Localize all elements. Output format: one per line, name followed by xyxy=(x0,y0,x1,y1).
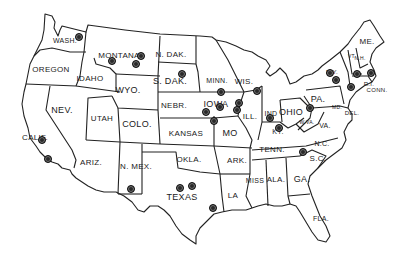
state-label: PA. xyxy=(311,95,326,104)
state-label: UTAH xyxy=(91,115,113,123)
state-label: N. MEX. xyxy=(120,163,152,171)
state-label: MINN. xyxy=(206,77,227,84)
state-label: ARIZ. xyxy=(80,159,102,167)
state-label: TENN. xyxy=(259,146,285,154)
state-label: NEV. xyxy=(51,106,72,115)
location-marker-icon xyxy=(209,204,217,212)
state-label: N.H. xyxy=(354,56,365,61)
location-marker-icon xyxy=(275,124,283,132)
state-label: ILL. xyxy=(243,113,258,121)
location-marker-icon xyxy=(38,136,46,144)
location-marker-icon xyxy=(217,88,225,96)
state-label: FLA. xyxy=(313,215,329,222)
location-marker-icon xyxy=(188,182,196,190)
location-marker-icon xyxy=(332,76,340,84)
state-label: ALA. xyxy=(267,176,286,184)
state-label: MISS xyxy=(246,177,264,184)
state-label: MONTANA xyxy=(98,52,140,60)
state-label: NEBR. xyxy=(161,102,187,110)
state-label: GA. xyxy=(294,175,310,184)
state-label: WASH. xyxy=(53,37,77,44)
state-label: OKLA. xyxy=(176,156,201,164)
state-label: CONN. xyxy=(367,87,388,93)
state-label: W.VA. xyxy=(299,120,314,125)
location-marker-icon xyxy=(353,70,361,78)
state-label: S.C. xyxy=(310,155,327,163)
location-marker-icon xyxy=(367,69,375,77)
location-marker-icon xyxy=(137,52,145,60)
location-marker-icon xyxy=(347,83,355,91)
state-label: N.C. xyxy=(314,140,329,147)
location-marker-icon xyxy=(176,184,184,192)
location-marker-icon xyxy=(266,114,274,122)
state-label: DEL. xyxy=(345,110,360,116)
state-label: ARK. xyxy=(227,157,247,165)
state-label: MD. xyxy=(332,105,342,110)
state-label: MO xyxy=(222,129,237,138)
state-label: ME. xyxy=(359,38,374,46)
location-marker-icon xyxy=(202,108,210,116)
state-label: OHIO xyxy=(279,108,303,117)
state-label: N. DAK. xyxy=(156,51,187,59)
state-label: OREGON xyxy=(32,66,69,74)
location-marker-icon xyxy=(44,155,52,163)
location-marker-icon xyxy=(178,70,186,78)
state-label: TEXAS xyxy=(166,193,197,202)
state-label: WIS. xyxy=(235,78,254,86)
country-outline xyxy=(22,14,384,244)
state-label: WYO. xyxy=(115,86,140,95)
location-marker-icon xyxy=(127,185,135,193)
state-label: KANSAS xyxy=(169,130,203,138)
location-marker-icon xyxy=(216,103,224,111)
location-marker-icon xyxy=(75,33,83,41)
state-label: VA. xyxy=(319,122,331,129)
location-marker-icon xyxy=(306,104,314,112)
location-marker-icon xyxy=(108,57,116,65)
location-marker-icon xyxy=(253,87,261,95)
state-label: LA xyxy=(228,192,238,200)
location-marker-icon xyxy=(299,148,307,156)
location-marker-icon xyxy=(233,106,241,114)
location-marker-icon xyxy=(132,60,140,68)
state-label: COLO. xyxy=(122,120,152,129)
location-marker-icon xyxy=(210,117,218,125)
state-label: IDAHO xyxy=(77,75,104,83)
